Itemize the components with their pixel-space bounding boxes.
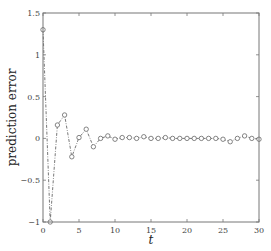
data-point-marker (55, 123, 59, 127)
data-series (41, 28, 261, 225)
x-tick-label: 0 (40, 226, 45, 235)
data-point-marker (235, 136, 239, 140)
axis-ticks: 051015202530−1−0.500.511.5 (21, 9, 265, 235)
data-point-marker (192, 136, 196, 140)
series-line (43, 30, 259, 222)
data-point-marker (113, 137, 117, 141)
data-point-marker (91, 145, 95, 149)
y-tick-label: −1 (28, 218, 40, 227)
data-point-marker (163, 135, 167, 139)
data-point-marker (214, 136, 218, 140)
y-tick-label: 0.5 (27, 93, 40, 102)
data-point-marker (149, 136, 153, 140)
data-point-marker (120, 135, 124, 139)
prediction-error-chart: 051015202530−1−0.500.511.5 t prediction … (0, 0, 271, 251)
data-point-marker (106, 134, 110, 138)
y-tick-label: −0.5 (21, 176, 40, 185)
x-tick-label: 20 (182, 226, 192, 235)
data-point-marker (178, 136, 182, 140)
data-point-marker (84, 127, 88, 131)
y-tick-label: 1 (35, 51, 40, 60)
data-point-marker (250, 136, 254, 140)
data-point-marker (127, 135, 131, 139)
data-point-marker (156, 136, 160, 140)
data-point-marker (98, 136, 102, 140)
data-point-marker (70, 155, 74, 159)
x-tick-label: 10 (110, 226, 120, 235)
x-axis-label: t (149, 233, 154, 247)
data-point-marker (185, 136, 189, 140)
data-point-marker (77, 135, 81, 139)
plot-frame (43, 13, 259, 222)
x-tick-label: 30 (254, 226, 264, 235)
x-tick-label: 25 (218, 226, 228, 235)
data-point-marker (62, 113, 66, 117)
y-tick-label: 1.5 (27, 9, 40, 18)
data-point-marker (221, 137, 225, 141)
data-point-marker (134, 136, 138, 140)
y-axis-label: prediction error (5, 68, 19, 166)
data-point-marker (199, 136, 203, 140)
data-point-marker (142, 135, 146, 139)
data-point-marker (206, 136, 210, 140)
y-tick-label: 0 (35, 134, 40, 143)
data-point-marker (242, 134, 246, 138)
data-point-marker (170, 136, 174, 140)
data-point-marker (228, 140, 232, 144)
x-tick-label: 5 (76, 226, 81, 235)
